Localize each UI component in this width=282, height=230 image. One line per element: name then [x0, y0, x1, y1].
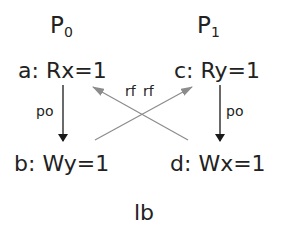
rf-label-left: rf — [125, 84, 136, 98]
diagram-title: lb — [134, 202, 154, 224]
rf-edge-d-a — [93, 87, 188, 140]
rf-label-right: rf — [143, 84, 154, 98]
po-label-left: po — [36, 104, 53, 118]
po-label-right: po — [226, 104, 243, 118]
